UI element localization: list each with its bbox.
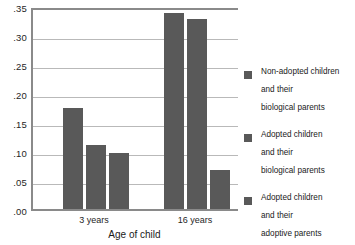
bar [86,145,106,209]
legend-label: Adopted children and their biological pa… [261,130,325,175]
bar-chart-figure: .00.05.10.15.20.25.30.35 Age of child 3 … [0,0,355,245]
x-axis: Age of child 3 years16 years [31,211,238,245]
x-axis-title: Age of child [31,229,238,240]
bar [210,170,230,209]
x-tick-label: 16 years [178,215,213,225]
y-tick-label: .25 [13,61,27,72]
chart-legend: Non-adopted children and their biologica… [244,60,355,245]
bar-group-container [33,10,238,209]
bar [187,19,207,209]
bar [109,153,129,209]
plot-area [31,8,238,211]
legend-swatch-icon [244,134,252,142]
y-tick-label: .15 [13,119,27,130]
legend-swatch-icon [244,71,252,79]
bar [63,108,83,210]
x-tick-label: 3 years [79,215,109,225]
y-tick-label: .30 [13,32,27,43]
y-tick-label: .35 [13,3,27,14]
bar [164,13,184,209]
y-tick-label: .20 [13,90,27,101]
y-tick-label: .10 [13,148,27,159]
legend-swatch-icon [244,197,252,205]
y-tick-label: .05 [13,177,27,188]
legend-entry: Non-adopted children and their biologica… [244,60,355,114]
legend-entry: Adopted children and their adoptive pare… [244,186,355,240]
y-axis: .00.05.10.15.20.25.30.35 [0,0,31,211]
legend-entry: Adopted children and their biological pa… [244,123,355,177]
legend-label: Adopted children and their adoptive pare… [261,193,322,238]
legend-label: Non-adopted children and their biologica… [261,67,339,112]
y-tick-label: .00 [13,206,27,217]
